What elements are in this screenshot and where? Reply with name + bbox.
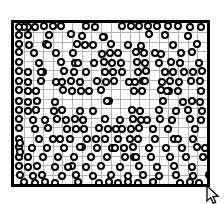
ring-point-marker bbox=[120, 144, 128, 152]
ring-point-marker bbox=[132, 48, 140, 56]
ring-point-marker bbox=[15, 97, 23, 105]
ring-point-marker bbox=[186, 23, 194, 31]
ring-point-marker bbox=[191, 125, 199, 133]
ring-point-marker bbox=[141, 59, 149, 67]
ring-point-marker bbox=[184, 106, 192, 114]
ring-point-marker bbox=[166, 153, 174, 161]
ring-point-marker bbox=[37, 68, 45, 76]
ring-point-marker bbox=[74, 178, 82, 184]
ring-point-marker bbox=[70, 68, 78, 76]
ring-point-marker bbox=[15, 31, 23, 39]
ring-point-marker bbox=[198, 67, 206, 75]
ring-point-marker bbox=[135, 23, 143, 30]
ring-point-marker bbox=[182, 153, 190, 161]
ring-point-marker bbox=[24, 68, 32, 76]
ring-point-marker bbox=[172, 107, 180, 115]
ring-point-marker bbox=[179, 98, 187, 106]
ring-point-marker bbox=[138, 87, 146, 95]
ring-point-marker bbox=[140, 49, 148, 57]
ring-point-marker bbox=[124, 178, 132, 184]
ring-point-marker bbox=[109, 68, 117, 76]
ring-point-marker bbox=[73, 40, 81, 48]
ring-point-marker bbox=[112, 125, 120, 133]
ring-point-marker bbox=[15, 40, 23, 48]
ring-point-marker bbox=[161, 31, 169, 39]
ring-point-marker bbox=[169, 41, 177, 49]
ring-point-marker bbox=[51, 98, 59, 106]
ring-point-marker bbox=[174, 87, 182, 95]
ring-point-marker bbox=[25, 41, 33, 49]
ring-point-marker bbox=[198, 107, 206, 115]
ring-point-marker bbox=[95, 179, 103, 184]
ring-point-marker bbox=[82, 68, 90, 76]
ring-point-marker bbox=[24, 87, 32, 95]
ring-point-marker bbox=[66, 135, 74, 143]
ring-point-marker bbox=[116, 163, 124, 171]
ring-point-marker bbox=[89, 107, 97, 115]
ring-point-marker bbox=[114, 179, 122, 184]
ring-point-marker bbox=[99, 33, 107, 41]
ring-point-marker bbox=[54, 153, 62, 161]
ring-point-marker bbox=[57, 58, 65, 66]
ring-point-marker bbox=[44, 41, 52, 49]
ring-point-marker bbox=[69, 49, 77, 57]
ring-point-marker bbox=[205, 171, 207, 179]
ring-point-marker bbox=[24, 78, 32, 86]
mouse-arrow-cursor[interactable] bbox=[206, 186, 222, 204]
ring-point-marker bbox=[196, 98, 204, 106]
ring-point-marker bbox=[24, 107, 32, 115]
ring-point-marker bbox=[40, 23, 48, 30]
ring-point-marker bbox=[158, 78, 166, 86]
ring-point-marker bbox=[74, 59, 82, 67]
ring-point-marker bbox=[147, 153, 155, 161]
ring-point-marker bbox=[197, 23, 205, 31]
ring-point-marker bbox=[134, 135, 142, 143]
ring-point-marker bbox=[193, 40, 201, 48]
ring-point-marker bbox=[145, 30, 153, 38]
figure-root bbox=[0, 0, 224, 204]
ring-point-marker bbox=[24, 98, 32, 106]
ring-point-marker bbox=[79, 116, 87, 124]
ring-point-marker bbox=[15, 77, 23, 85]
ring-point-marker bbox=[45, 31, 53, 39]
ring-point-marker bbox=[135, 162, 143, 170]
ring-point-marker bbox=[166, 77, 174, 85]
ring-point-marker bbox=[51, 163, 59, 171]
ring-point-marker bbox=[83, 135, 91, 143]
ring-point-marker bbox=[104, 125, 112, 133]
ring-point-marker bbox=[51, 179, 59, 184]
ring-point-marker bbox=[164, 125, 172, 133]
ring-point-marker bbox=[98, 50, 106, 58]
ring-point-marker bbox=[142, 67, 150, 75]
ring-point-marker bbox=[145, 144, 153, 152]
ring-point-marker bbox=[101, 115, 109, 123]
ring-point-marker bbox=[87, 153, 95, 161]
plot-border-frame bbox=[11, 20, 210, 187]
ring-point-marker bbox=[159, 97, 167, 105]
ring-point-marker bbox=[111, 144, 119, 152]
ring-point-marker bbox=[82, 163, 90, 171]
ring-point-marker bbox=[167, 58, 175, 66]
ring-point-marker bbox=[121, 153, 129, 161]
ring-point-marker bbox=[77, 87, 85, 95]
ring-point-marker bbox=[49, 23, 57, 30]
ring-point-marker bbox=[32, 106, 40, 114]
ring-point-marker bbox=[153, 163, 161, 171]
ring-point-marker bbox=[31, 125, 39, 133]
ring-point-marker bbox=[60, 144, 68, 152]
ring-point-marker bbox=[37, 77, 45, 85]
ring-point-marker bbox=[91, 23, 99, 31]
ring-point-marker bbox=[52, 49, 60, 57]
ring-point-marker bbox=[162, 144, 170, 152]
ring-point-marker bbox=[134, 179, 142, 184]
ring-point-marker bbox=[155, 106, 163, 114]
ring-point-marker bbox=[31, 179, 39, 184]
ring-point-marker bbox=[195, 179, 203, 184]
ring-point-marker bbox=[81, 41, 89, 49]
ring-point-marker bbox=[114, 135, 122, 143]
ring-point-marker bbox=[133, 58, 141, 66]
ring-point-marker bbox=[149, 125, 157, 133]
ring-point-marker bbox=[92, 135, 100, 143]
ring-point-marker bbox=[151, 135, 159, 143]
ring-point-marker bbox=[188, 163, 196, 171]
